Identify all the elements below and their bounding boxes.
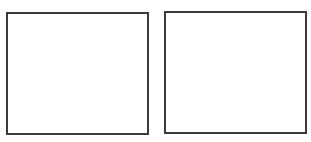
empty-panel-left <box>6 12 149 135</box>
empty-panel-right <box>164 11 307 134</box>
